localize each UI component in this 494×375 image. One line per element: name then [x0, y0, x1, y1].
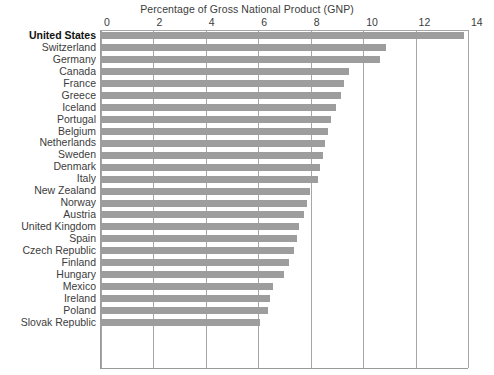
- bar-row: Sweden: [0, 149, 494, 161]
- bar-track: [100, 209, 468, 221]
- bar-row: Norway: [0, 197, 494, 209]
- bar-row: Mexico: [0, 281, 494, 293]
- bar-row: Germany: [0, 54, 494, 66]
- bar-row: United Kingdom: [0, 221, 494, 233]
- bar-track: [100, 293, 468, 305]
- bar: [100, 223, 299, 230]
- bar-track: [100, 54, 468, 66]
- category-label: Finland: [0, 257, 96, 269]
- bar-row: Italy: [0, 173, 494, 185]
- category-label: Belgium: [0, 126, 96, 138]
- bar: [100, 164, 320, 171]
- x-tick-label-4: 4: [206, 16, 215, 28]
- bar-track: [100, 126, 468, 138]
- bar-track: [100, 42, 468, 54]
- category-label: Netherlands: [0, 137, 96, 149]
- bar-row: Greece: [0, 90, 494, 102]
- bar-track: [100, 161, 468, 173]
- gnp-bar-chart: Percentage of Gross National Product (GN…: [0, 0, 494, 375]
- bar-track: [100, 66, 468, 78]
- bar: [100, 56, 380, 63]
- bar: [100, 235, 297, 242]
- bar: [100, 152, 323, 159]
- category-label: Portugal: [0, 114, 96, 126]
- bar: [100, 271, 284, 278]
- bar: [100, 188, 310, 195]
- bar-row: Austria: [0, 209, 494, 221]
- bar-row: Czech Republic: [0, 245, 494, 257]
- bar: [100, 116, 331, 123]
- bar-row: Finland: [0, 257, 494, 269]
- chart-title: Percentage of Gross National Product (GN…: [0, 3, 494, 15]
- category-label: Austria: [0, 209, 96, 221]
- category-label: France: [0, 78, 96, 90]
- x-tick-label-6: 6: [258, 16, 267, 28]
- bar-track: [100, 78, 468, 90]
- category-label: Iceland: [0, 102, 96, 114]
- bar-row: United States: [0, 30, 494, 42]
- bar-row: Spain: [0, 233, 494, 245]
- bar: [100, 211, 304, 218]
- bar-track: [100, 173, 468, 185]
- bar-row: Netherlands: [0, 137, 494, 149]
- bar-row: Switzerland: [0, 42, 494, 54]
- bar-track: [100, 221, 468, 233]
- x-tick-label-0: 0: [101, 16, 110, 28]
- bar: [100, 128, 328, 135]
- bar-track: [100, 281, 468, 293]
- category-label: Slovak Republic: [0, 317, 96, 329]
- bar-rows: United StatesSwitzerlandGermanyCanadaFra…: [0, 30, 494, 368]
- x-tick-label-14: 14: [468, 16, 483, 28]
- category-label: United States: [0, 30, 96, 42]
- axis-bottom-rule: [100, 368, 468, 369]
- category-label: Poland: [0, 305, 96, 317]
- bar-row: Denmark: [0, 161, 494, 173]
- bar-row: New Zealand: [0, 185, 494, 197]
- bar: [100, 44, 386, 51]
- bar: [100, 307, 268, 314]
- bar-row: France: [0, 78, 494, 90]
- category-label: United Kingdom: [0, 221, 96, 233]
- bar-row: Iceland: [0, 102, 494, 114]
- bar-track: [100, 317, 468, 329]
- bar-row: Ireland: [0, 293, 494, 305]
- bar-track: [100, 30, 468, 42]
- category-label: Czech Republic: [0, 245, 96, 257]
- x-tick-label-8: 8: [311, 16, 320, 28]
- category-label: Greece: [0, 90, 96, 102]
- category-label: New Zealand: [0, 185, 96, 197]
- category-label: Switzerland: [0, 42, 96, 54]
- bar: [100, 104, 336, 111]
- bar: [100, 295, 270, 302]
- category-label: Hungary: [0, 269, 96, 281]
- bar-track: [100, 114, 468, 126]
- bar: [100, 32, 464, 39]
- category-label: Ireland: [0, 293, 96, 305]
- bar-track: [100, 90, 468, 102]
- bar: [100, 80, 344, 87]
- bar: [100, 283, 273, 290]
- category-label: Mexico: [0, 281, 96, 293]
- bar-track: [100, 185, 468, 197]
- bar: [100, 176, 318, 183]
- x-tick-label-10: 10: [363, 16, 378, 28]
- bar: [100, 247, 294, 254]
- bar-track: [100, 305, 468, 317]
- bar-row: Canada: [0, 66, 494, 78]
- bar-track: [100, 257, 468, 269]
- x-tick-label-2: 2: [153, 16, 162, 28]
- bar: [100, 319, 260, 326]
- bar-row: Portugal: [0, 114, 494, 126]
- bar: [100, 259, 289, 266]
- category-label: Germany: [0, 54, 96, 66]
- category-label: Denmark: [0, 161, 96, 173]
- x-tick-label-12: 12: [416, 16, 431, 28]
- bar-row: Poland: [0, 305, 494, 317]
- bar-row: Belgium: [0, 126, 494, 138]
- bar-track: [100, 233, 468, 245]
- bar-track: [100, 197, 468, 209]
- bar-row: Hungary: [0, 269, 494, 281]
- category-label: Sweden: [0, 149, 96, 161]
- bar: [100, 140, 325, 147]
- bar: [100, 68, 349, 75]
